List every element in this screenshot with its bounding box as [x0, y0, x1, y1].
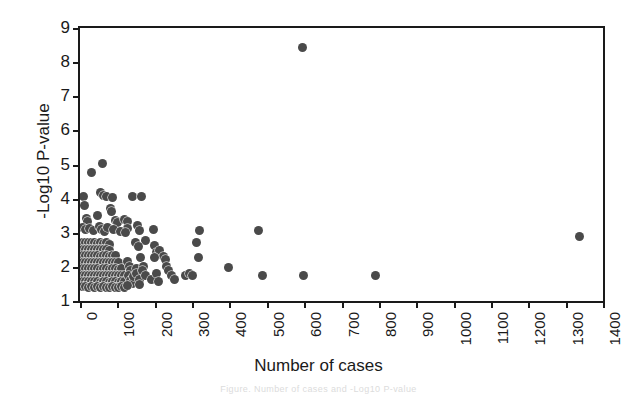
scatter-point — [137, 192, 146, 201]
x-axis-tick-label: 700 — [346, 312, 361, 337]
x-axis-tick — [342, 301, 344, 308]
y-axis-tick-label: 1 — [44, 292, 70, 309]
y-axis-tick — [73, 199, 80, 201]
x-axis-tick-label: 1200 — [532, 312, 547, 345]
scatter-plot-figure: -Log10 P-value 123456789 010020030040050… — [0, 0, 637, 397]
x-axis-tick — [80, 301, 82, 308]
x-axis-tick — [192, 301, 194, 308]
x-axis-tick-label: 200 — [159, 312, 174, 337]
y-axis-tick-label: 6 — [44, 121, 70, 138]
x-axis-title: Number of cases — [0, 356, 637, 376]
scatter-point — [170, 275, 179, 284]
data-points-layer — [80, 28, 603, 301]
y-axis-tick-label: 8 — [44, 53, 70, 70]
y-axis-tick — [73, 96, 80, 98]
scatter-point — [150, 253, 159, 262]
x-axis-tick — [454, 301, 456, 308]
y-axis-tick — [73, 233, 80, 235]
x-axis-tick — [117, 301, 119, 308]
x-axis-tick-label: 300 — [196, 312, 211, 337]
x-axis-tick — [566, 301, 568, 308]
y-axis-tick-label: 4 — [44, 190, 70, 207]
scatter-point — [98, 159, 107, 168]
x-axis-tick — [491, 301, 493, 308]
y-axis-tick — [73, 28, 80, 30]
scatter-point — [258, 271, 267, 280]
scatter-point — [135, 280, 144, 289]
scatter-point — [121, 228, 130, 237]
scatter-point — [93, 211, 102, 220]
scatter-point — [194, 253, 203, 262]
scatter-point — [254, 226, 263, 235]
scatter-point — [188, 271, 197, 280]
y-axis-tick — [73, 62, 80, 64]
x-axis-tick — [304, 301, 306, 308]
x-axis-tick-label: 1400 — [607, 312, 622, 345]
x-axis-tick-label: 900 — [420, 312, 435, 337]
scatter-point — [224, 263, 233, 272]
scatter-point — [149, 225, 158, 234]
y-axis-tick — [73, 301, 80, 303]
scatter-point — [299, 271, 308, 280]
x-axis-tick-label: 600 — [308, 312, 323, 337]
scatter-point — [192, 238, 201, 247]
scatter-point — [128, 192, 137, 201]
x-axis-tick — [416, 301, 418, 308]
scatter-point — [80, 201, 89, 210]
x-axis-tick-label: 1000 — [458, 312, 473, 345]
x-axis-tick — [528, 301, 530, 308]
x-axis-tick-label: 1100 — [495, 312, 510, 344]
scatter-point — [135, 226, 144, 235]
x-axis-tick — [267, 301, 269, 308]
scatter-point — [371, 271, 380, 280]
x-axis-tick-label: 500 — [271, 312, 286, 337]
x-axis-tick — [155, 301, 157, 308]
x-axis-tick-label: 0 — [84, 312, 99, 320]
x-axis-tick — [603, 301, 605, 308]
scatter-point — [87, 168, 96, 177]
scatter-point — [123, 281, 132, 290]
scatter-point — [108, 193, 117, 202]
y-axis-tick-label: 2 — [44, 258, 70, 275]
scatter-point — [298, 43, 307, 52]
y-axis-tick-label: 7 — [44, 87, 70, 104]
x-axis-tick-label: 1300 — [570, 312, 585, 345]
x-axis-tick-label: 400 — [233, 312, 248, 337]
x-axis-tick — [379, 301, 381, 308]
y-axis-tick — [73, 267, 80, 269]
y-axis-tick — [73, 165, 80, 167]
x-axis-tick-label: 100 — [121, 312, 136, 337]
x-axis-tick-label: 800 — [383, 312, 398, 337]
scatter-point — [80, 192, 88, 201]
scatter-point — [107, 207, 116, 216]
y-axis-tick — [73, 130, 80, 132]
scatter-point — [154, 277, 163, 286]
y-axis-tick-label: 5 — [44, 156, 70, 173]
scatter-point — [195, 226, 204, 235]
x-axis-tick — [229, 301, 231, 308]
figure-caption: Figure. Number of cases and -Log10 P-val… — [0, 384, 637, 394]
plot-area: 123456789 010020030040050060070080090010… — [78, 26, 605, 303]
scatter-point — [134, 242, 143, 251]
y-axis-tick-label: 3 — [44, 224, 70, 241]
scatter-point — [575, 232, 584, 241]
scatter-point — [136, 253, 145, 262]
y-axis-tick-label: 9 — [44, 19, 70, 36]
